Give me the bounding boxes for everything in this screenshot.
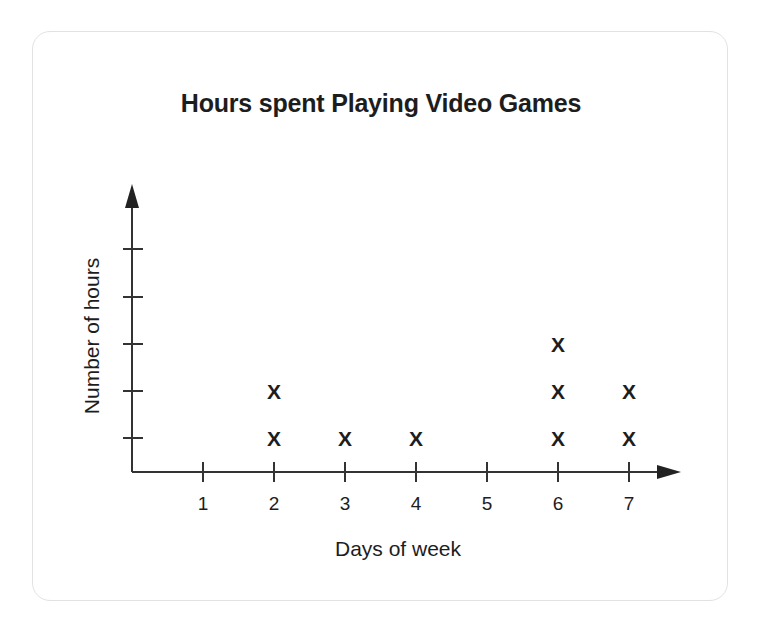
data-markers: XXXXXXXXX [267,333,636,450]
x-axis-title: Days of week [335,537,462,560]
y-axis-arrowhead [125,184,139,208]
data-point-marker: X [551,333,565,356]
x-tick-label: 3 [340,493,351,514]
x-tick-label: 4 [411,493,422,514]
chart-card: Hours spent Playing Video Games [32,31,728,601]
data-point-marker: X [267,427,281,450]
x-tick-label: 5 [482,493,493,514]
x-tick-label: 2 [269,493,280,514]
x-tick-label: 6 [553,493,564,514]
data-point-marker: X [267,380,281,403]
screen: Hours spent Playing Video Games [0,0,767,636]
data-point-marker: X [622,380,636,403]
data-point-marker: X [551,427,565,450]
plot-area: 1 2 3 4 5 6 7 XXXXXXXXX Days of week Num… [33,32,729,602]
y-axis-title: Number of hours [80,258,103,414]
data-point-marker: X [551,380,565,403]
x-tick-label: 1 [198,493,209,514]
x-tick-label: 7 [624,493,635,514]
x-axis-tick-labels: 1 2 3 4 5 6 7 [198,493,635,514]
x-axis-arrowhead [657,465,681,479]
data-point-marker: X [622,427,636,450]
data-point-marker: X [338,427,352,450]
data-point-marker: X [409,427,423,450]
